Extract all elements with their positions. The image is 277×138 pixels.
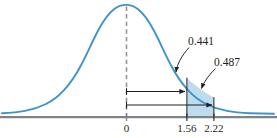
- axis-tick-label-1-56: 1.56: [177, 122, 197, 134]
- axis-tick-label-0: 0: [124, 122, 130, 134]
- leader-line-0487: [202, 69, 216, 89]
- annotation-label-0487: 0.487: [214, 56, 240, 68]
- annotation-label-0441: 0.441: [188, 35, 214, 47]
- leader-line-0441: [176, 48, 189, 73]
- shaded-area-region: [187, 78, 214, 117]
- normal-distribution-figure: 0.441 0.487 0 1.56 2.22: [0, 0, 277, 138]
- axis-tick-label-2-22: 2.22: [204, 122, 223, 134]
- measure-arrow-0441: [127, 88, 186, 95]
